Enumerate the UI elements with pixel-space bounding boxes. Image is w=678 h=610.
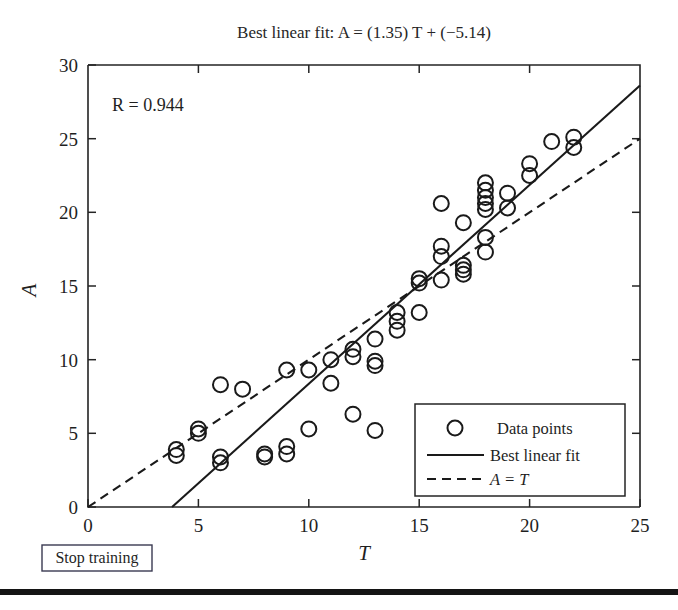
chart-title: Best linear fit: A = (1.35) T + (−5.14) [237,23,491,42]
x-tick-label: 0 [83,515,93,536]
data-point-marker [368,332,383,347]
x-tick-labels: 0 5 10 15 20 25 [83,515,649,536]
data-point-marker [478,245,493,260]
x-tick-label: 15 [410,515,429,536]
data-point-marker [390,314,405,329]
legend-label: Best linear fit [490,446,580,465]
data-point-marker [368,423,383,438]
y-tick-label: 25 [59,129,78,150]
stop-training-button[interactable]: Stop training [42,545,152,571]
legend-label: A = T [489,470,530,489]
y-tick-labels: 0 5 10 15 20 25 30 [59,55,78,518]
correlation-annotation: R = 0.944 [112,95,184,115]
data-point-marker [434,273,449,288]
y-tick-label: 30 [59,55,78,76]
legend-label: Data points [497,419,573,438]
data-point-marker [235,382,250,397]
data-point-marker [213,377,228,392]
x-axis-label: T [358,541,371,565]
legend: Data points Best linear fit A = T [415,404,625,496]
figure-container: 0 5 10 15 20 25 30 0 5 10 15 20 25 T A B… [0,0,678,610]
x-tick-label: 5 [194,515,204,536]
data-point-marker [434,249,449,264]
data-point-marker [345,407,360,422]
data-point-marker [456,215,471,230]
data-point-marker [301,421,316,436]
data-point-marker [390,305,405,320]
x-tick-label: 20 [520,515,539,536]
x-tick-label: 25 [631,515,650,536]
data-point-marker [412,305,427,320]
data-point-marker [500,200,515,215]
y-tick-label: 10 [59,350,78,371]
data-point-marker [434,196,449,211]
data-point-marker [500,186,515,201]
x-tick-label: 10 [299,515,318,536]
y-tick-label: 20 [59,202,78,223]
y-axis-label: A [17,283,41,298]
data-point-marker [301,362,316,377]
data-point-marker [566,140,581,155]
y-tick-label: 5 [69,423,79,444]
page-edge-bar [0,589,678,595]
y-tick-label: 15 [59,276,78,297]
data-point-marker [544,134,559,149]
data-point-marker [390,323,405,338]
scatter-plot: 0 5 10 15 20 25 30 0 5 10 15 20 25 T A B… [0,0,678,610]
y-tick-label: 0 [69,497,79,518]
data-point-marker [323,376,338,391]
stop-training-label: Stop training [55,549,138,567]
